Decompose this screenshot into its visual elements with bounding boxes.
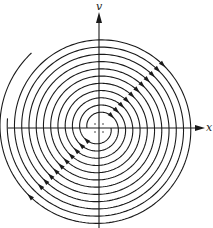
y-axis-label: v [96, 1, 102, 12]
x-axis-label: x [206, 122, 212, 133]
y-axis-arrow-icon [96, 12, 102, 23]
phase-plane-diagram [0, 0, 213, 228]
x-axis-arrow-icon [195, 125, 205, 131]
